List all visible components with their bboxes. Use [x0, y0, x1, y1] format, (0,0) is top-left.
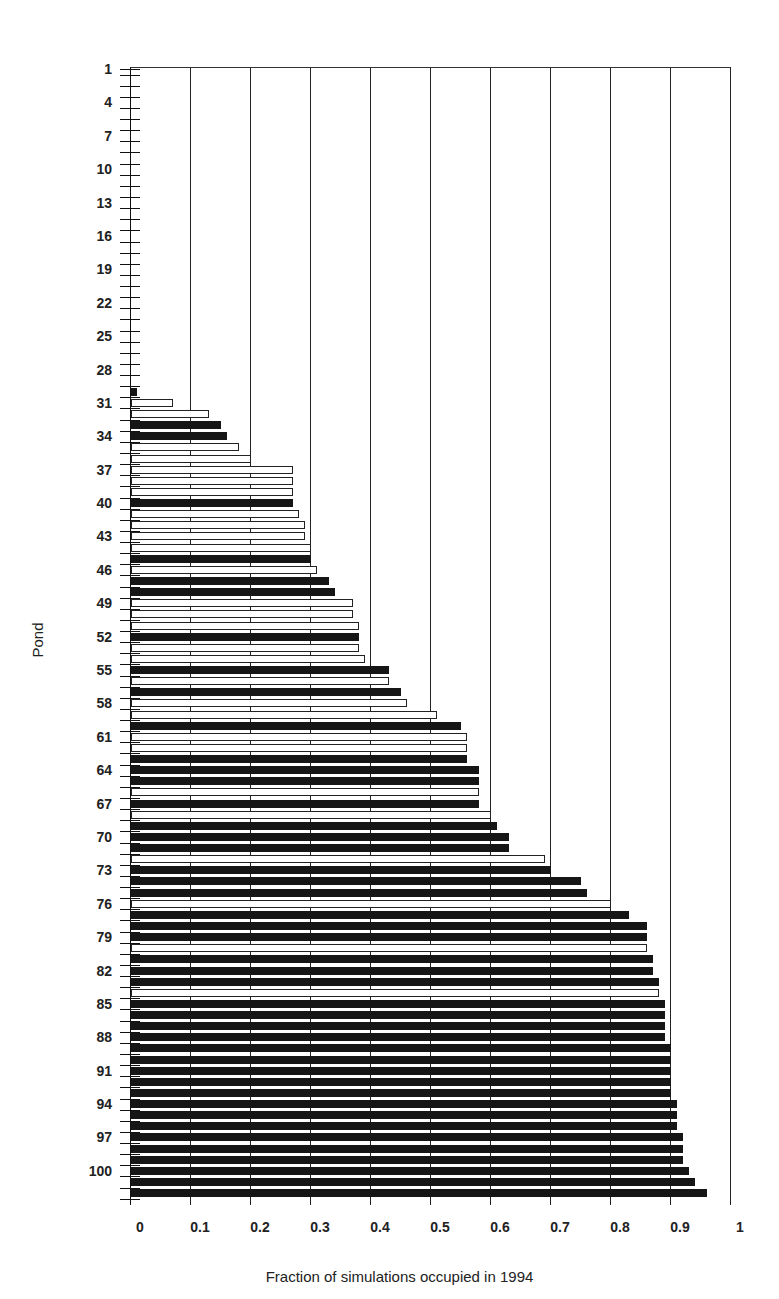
bar-pond-31	[131, 399, 173, 407]
x-tick-label: 0.5	[430, 1219, 449, 1235]
y-tick-label: 28	[52, 362, 112, 378]
y-tick-label: 55	[52, 662, 112, 678]
bar-pond-85	[131, 1000, 665, 1008]
y-tick	[120, 197, 140, 198]
y-tick	[120, 1154, 140, 1155]
bar-pond-83	[131, 978, 659, 986]
y-tick	[120, 253, 140, 254]
bar-pond-74	[131, 877, 581, 885]
bar-pond-59	[131, 711, 437, 719]
bar-pond-56	[131, 677, 389, 685]
y-tick	[120, 564, 140, 565]
y-tick	[120, 776, 140, 777]
bar-pond-58	[131, 699, 407, 707]
y-tick	[120, 587, 140, 588]
y-axis-title: Pond	[29, 622, 46, 657]
y-tick	[120, 987, 140, 988]
y-tick-label: 37	[52, 462, 112, 478]
y-tick	[120, 720, 140, 721]
y-axis-line	[130, 67, 131, 1205]
y-tick-label: 49	[52, 595, 112, 611]
y-tick-label: 94	[52, 1096, 112, 1112]
bar-pond-82	[131, 967, 653, 975]
y-tick-label: 19	[52, 261, 112, 277]
y-tick-label: 82	[52, 963, 112, 979]
y-tick	[120, 1032, 140, 1033]
y-tick	[120, 820, 140, 821]
y-tick	[120, 954, 140, 955]
bar-pond-68	[131, 811, 491, 819]
y-tick	[120, 164, 140, 165]
bar-pond-50	[131, 610, 353, 618]
y-tick	[120, 1021, 140, 1022]
bar-pond-72	[131, 855, 545, 863]
gridline-1	[730, 67, 731, 1205]
plot-area	[130, 67, 730, 1205]
bar-pond-51	[131, 622, 359, 630]
y-tick	[120, 286, 140, 287]
bar-pond-92	[131, 1078, 671, 1086]
bar-pond-36	[131, 455, 251, 463]
y-tick-label: 31	[52, 395, 112, 411]
y-tick	[120, 865, 140, 866]
y-tick-label: 40	[52, 495, 112, 511]
y-tick	[120, 1121, 140, 1122]
y-tick	[120, 742, 140, 743]
bar-pond-35	[131, 443, 239, 451]
bar-pond-39	[131, 488, 293, 496]
y-tick	[120, 575, 140, 576]
y-tick	[120, 731, 140, 732]
bar-pond-91	[131, 1067, 671, 1075]
y-tick	[120, 230, 140, 231]
y-tick	[120, 397, 140, 398]
bar-pond-87	[131, 1022, 665, 1030]
bar-pond-45	[131, 555, 311, 563]
y-tick-label: 67	[52, 796, 112, 812]
y-tick	[120, 1099, 140, 1100]
y-tick	[120, 831, 140, 832]
y-tick	[120, 69, 140, 70]
bar-pond-94	[131, 1100, 677, 1108]
y-tick	[120, 498, 140, 499]
x-tick-label: 0.8	[610, 1219, 629, 1235]
y-tick-label: 70	[52, 829, 112, 845]
bar-pond-79	[131, 933, 647, 941]
y-tick-label: 25	[52, 328, 112, 344]
y-tick	[120, 75, 140, 76]
y-tick-label: 100	[52, 1163, 112, 1179]
y-tick	[120, 631, 140, 632]
bar-pond-38	[131, 477, 293, 485]
x-tick-label: 0.4	[370, 1219, 389, 1235]
y-tick	[120, 854, 140, 855]
bar-pond-42	[131, 521, 305, 529]
y-tick	[120, 108, 140, 109]
y-tick	[120, 375, 140, 376]
y-tick	[120, 1065, 140, 1066]
y-tick	[120, 141, 140, 142]
y-tick	[120, 464, 140, 465]
x-tick-label: 0.1	[190, 1219, 209, 1235]
y-tick-label: 46	[52, 562, 112, 578]
y-tick-label: 22	[52, 295, 112, 311]
y-tick	[120, 1054, 140, 1055]
bar-pond-71	[131, 844, 509, 852]
bar-pond-86	[131, 1011, 665, 1019]
bar-pond-47	[131, 577, 329, 585]
y-tick	[120, 709, 140, 710]
bar-pond-61	[131, 733, 467, 741]
y-tick-label: 76	[52, 896, 112, 912]
bar-pond-55	[131, 666, 389, 674]
y-tick	[120, 208, 140, 209]
y-tick-label: 91	[52, 1063, 112, 1079]
y-tick	[120, 664, 140, 665]
bar-pond-37	[131, 466, 293, 474]
y-tick	[120, 531, 140, 532]
y-tick-label: 58	[52, 695, 112, 711]
bar-pond-34	[131, 432, 227, 440]
bar-pond-43	[131, 532, 305, 540]
y-tick	[120, 787, 140, 788]
bar-pond-67	[131, 800, 479, 808]
bar-pond-62	[131, 744, 467, 752]
y-tick-label: 10	[52, 161, 112, 177]
y-tick	[120, 1132, 140, 1133]
